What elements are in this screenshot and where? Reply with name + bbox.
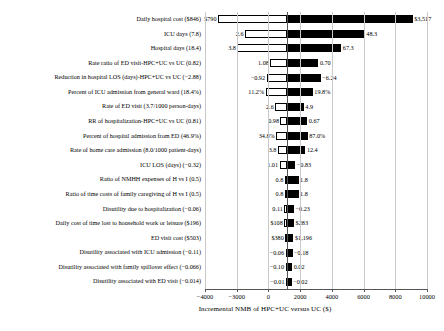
x-tick-label: −4000: [197, 293, 213, 300]
gridline: [395, 12, 396, 289]
tornado-row: $108$283: [205, 216, 427, 231]
parameter-label: ICU LOS (days) (−0.32): [140, 158, 201, 173]
low-value-label: 2.6: [266, 104, 274, 110]
parameter-label: Disutility associated with ICU admission…: [80, 245, 202, 260]
low-value-label: 3.8: [269, 147, 277, 153]
tornado-row: 34.8%87.0%: [205, 129, 427, 144]
high-value-label: $3,517: [414, 16, 431, 22]
low-value-label: −0.92: [251, 74, 265, 80]
tornado-row: −0.100.02: [205, 260, 427, 275]
low-value-bar: [280, 161, 288, 169]
x-tick-label: 8000: [389, 293, 402, 300]
tornado-row: −0.92−6.24: [205, 70, 427, 85]
parameter-label: RR of hospitalization-HPC+UC vs UC (0.81…: [88, 114, 201, 129]
tornado-row: 3.812.4: [205, 143, 427, 158]
low-value-bar: [276, 132, 287, 140]
low-value-label: −0.01: [270, 279, 284, 285]
parameter-label: Rate ratio of ED visit-HPC+UC vs UC (0.8…: [88, 56, 201, 71]
tornado-row: 2.648.3: [205, 27, 427, 42]
low-value-label: 0.8: [276, 191, 284, 197]
tornado-row: $380$1,196: [205, 231, 427, 246]
high-value-label: 0.02: [294, 264, 305, 270]
low-value-label: 0.8: [276, 177, 284, 183]
low-value-label: 1.08: [258, 60, 269, 66]
high-value-bar: [287, 132, 307, 140]
low-value-label: 0.11: [272, 206, 283, 212]
high-value-bar: [287, 59, 318, 67]
low-value-label: 3.8: [228, 45, 236, 51]
tornado-row: 0.81.8: [205, 187, 427, 202]
low-value-label: 0.98: [268, 118, 279, 124]
tornado-row: 2.64.9: [205, 99, 427, 114]
parameter-label: Percent of ICU admission from general wa…: [68, 85, 201, 100]
high-value-label: 19.8%: [314, 89, 330, 95]
high-value-bar: [287, 190, 298, 198]
low-value-label: 34.8%: [259, 133, 275, 139]
high-value-label: −0.83: [297, 162, 311, 168]
x-axis-title-text: Incremental NMB of HPC+UC versus UC ($): [199, 305, 332, 313]
high-value-label: 1.8: [300, 177, 308, 183]
tornado-row: 1.01−0.83: [205, 158, 427, 173]
parameter-label: Reduction in hospital LOS (days)-HPC+UC …: [54, 70, 201, 85]
x-tick: [205, 289, 206, 292]
x-tick-label: 2000: [294, 293, 307, 300]
parameter-label: ED visit cost ($503): [151, 231, 201, 246]
parameter-label: Rate of ED visit (3.7/1000 person-days): [102, 99, 201, 114]
low-value-label: 11.2%: [248, 89, 264, 95]
x-tick-label: −3000: [229, 293, 245, 300]
low-value-bar: [270, 59, 287, 67]
low-value-bar: [245, 30, 287, 38]
low-value-label: $108: [270, 220, 282, 226]
high-value-label: 1.8: [300, 191, 308, 197]
low-value-label: $380: [271, 235, 283, 241]
x-tick: [237, 289, 238, 292]
high-value-label: 0.70: [320, 60, 331, 66]
high-value-label: 48.3: [366, 31, 377, 37]
x-tick: [395, 289, 396, 292]
x-tick-label: 6000: [357, 293, 370, 300]
x-tick: [268, 289, 269, 292]
low-value-bar: [237, 44, 287, 52]
parameter-label: ICU days (7.8): [164, 27, 201, 42]
tornado-row: $790$3,517: [205, 12, 427, 27]
x-tick-label: 0: [267, 293, 270, 300]
tornado-row: 1.080.70: [205, 56, 427, 71]
tornado-row: 3.867.3: [205, 41, 427, 56]
tornado-row: 0.11−0.23: [205, 202, 427, 217]
x-axis-title: Incremental NMB of HPC+UC versus UC ($): [0, 305, 444, 313]
high-value-bar: [287, 30, 364, 38]
parameter-label: Disutility associated with ED visit (−0.…: [93, 274, 201, 289]
high-value-bar: [287, 117, 307, 125]
parameter-label-column: Daily hospital cost ($846)ICU days (7.8)…: [0, 12, 203, 289]
x-tick: [300, 289, 301, 292]
low-value-bar: [275, 103, 287, 111]
tornado-row: 0.980.67: [205, 114, 427, 129]
tornado-row: 11.2%19.8%: [205, 85, 427, 100]
gridline: [300, 12, 301, 289]
parameter-label: Percent of hospital admission from ED (4…: [83, 129, 201, 144]
low-value-label: −0.06: [270, 249, 284, 255]
high-value-label: −6.24: [322, 74, 336, 80]
low-value-bar: [280, 117, 287, 125]
parameter-label: Hospital days (18.4): [151, 41, 201, 56]
parameter-label: Disutility associated with family spillo…: [59, 260, 201, 275]
high-value-bar: [287, 15, 412, 23]
high-value-label: 87.0%: [309, 133, 325, 139]
tornado-row: −0.01−0.02: [205, 274, 427, 289]
tornado-row: −0.06−0.18: [205, 245, 427, 260]
low-value-bar: [278, 146, 288, 154]
high-value-bar: [287, 74, 320, 82]
parameter-label: Rate of home care admission (8.0/1000 pa…: [70, 143, 201, 158]
high-value-bar: [287, 44, 341, 52]
high-value-label: 12.4: [307, 147, 318, 153]
gridline: [205, 12, 206, 289]
high-value-label: $1,196: [295, 235, 312, 241]
gridline: [364, 12, 365, 289]
high-value-label: 0.67: [309, 118, 320, 124]
parameter-label: Ratio of NMHH expenses of H vs I (0.5): [100, 172, 201, 187]
gridline: [237, 12, 238, 289]
low-value-bar: [267, 74, 288, 82]
x-tick: [427, 289, 428, 292]
high-value-label: −0.23: [296, 206, 310, 212]
gridline: [268, 12, 269, 289]
